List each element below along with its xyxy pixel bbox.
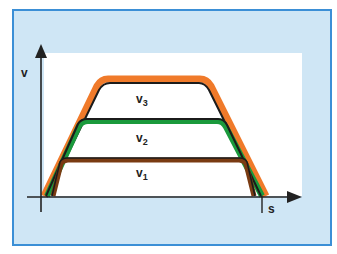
label-sub: 3 (143, 98, 148, 108)
y-axis-arrow-icon (35, 44, 47, 58)
series-label-v1: v1 (136, 167, 148, 182)
velocity-profile-chart (0, 0, 337, 254)
label-main: v (136, 131, 143, 145)
label-main: v (136, 166, 143, 180)
label-sub: 1 (143, 172, 148, 182)
x-axis-label: s (268, 203, 275, 215)
x-axis-arrow-icon (287, 191, 302, 203)
y-axis-label: v (21, 67, 28, 79)
series-label-v3: v3 (136, 93, 148, 108)
label-main: v (136, 92, 143, 106)
series-label-v2: v2 (136, 132, 148, 147)
label-sub: 2 (143, 137, 148, 147)
series-v1 (52, 158, 255, 196)
